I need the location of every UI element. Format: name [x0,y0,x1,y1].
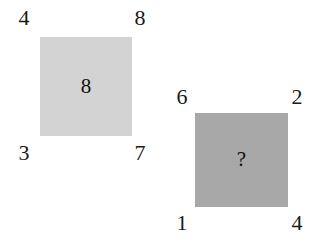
figure-1-corner-bottom-right: 7 [130,142,150,164]
figure-square-1: 4 8 8 3 7 [0,0,170,175]
figure-2-corner-bottom-right: 4 [287,212,307,234]
figure-1-corner-bottom-left: 3 [14,142,34,164]
figure-1-square-shape: 8 [40,37,132,136]
figure-1-corner-top-right: 8 [130,7,150,29]
figure-2-square-shape: ? [195,113,288,207]
figure-1-corner-top-left: 4 [14,7,34,29]
figure-2-corner-top-left: 6 [172,86,192,108]
puzzle-canvas: 4 8 8 3 7 6 2 ? 1 4 [0,0,313,250]
figure-square-2: 6 2 ? 1 4 [160,80,313,250]
figure-1-center-value: 8 [40,76,132,97]
figure-2-corner-top-right: 2 [287,86,307,108]
figure-2-corner-bottom-left: 1 [172,212,192,234]
figure-2-center-value-unknown: ? [195,149,288,170]
